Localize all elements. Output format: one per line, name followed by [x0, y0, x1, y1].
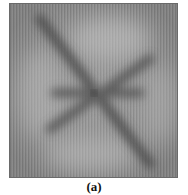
figure-image	[9, 3, 178, 178]
figure-caption: (a)	[0, 179, 188, 195]
star-pattern-image	[10, 4, 178, 178]
